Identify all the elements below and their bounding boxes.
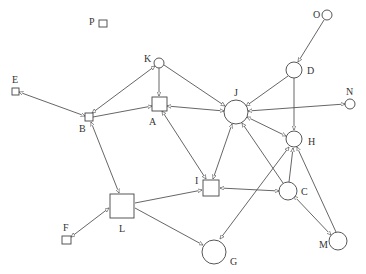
edge-O-D: [298, 20, 324, 62]
label-A: A: [149, 116, 157, 127]
node-A[interactable]: [152, 97, 167, 111]
edge-K-J: [164, 65, 225, 106]
label-M: M: [319, 239, 328, 250]
label-F: F: [63, 222, 69, 233]
edge-D-J: [246, 76, 288, 106]
node-K[interactable]: [154, 58, 164, 68]
edge-I-J: [213, 124, 232, 179]
label-O: O: [313, 9, 320, 20]
node-I[interactable]: [203, 180, 219, 196]
edge-B-K: [92, 66, 155, 113]
edge-L-I: [135, 190, 202, 203]
label-K: K: [144, 53, 152, 64]
edge-B-E: [19, 92, 85, 116]
edge-F-L: [71, 208, 109, 237]
edge-H-J: [247, 117, 286, 136]
edge-I-C: [220, 188, 279, 191]
label-L: L: [119, 223, 125, 234]
node-C[interactable]: [279, 182, 297, 200]
graph-canvas: P E B K A J O D N H I C L F G M: [0, 0, 366, 274]
edge-A-I: [162, 111, 206, 179]
node-N[interactable]: [345, 99, 355, 109]
edge-J-N: [248, 104, 345, 111]
node-L[interactable]: [110, 194, 134, 218]
node-E[interactable]: [12, 88, 19, 95]
node-D[interactable]: [286, 62, 302, 78]
label-G: G: [230, 256, 237, 267]
label-P: P: [89, 16, 95, 27]
node-B[interactable]: [85, 113, 93, 121]
node-F[interactable]: [62, 236, 71, 244]
edge-C-H: [289, 148, 293, 182]
label-H: H: [308, 136, 315, 147]
node-H[interactable]: [286, 131, 302, 147]
edge-M-C: [294, 196, 331, 235]
node-M[interactable]: [329, 232, 347, 250]
label-C: C: [301, 186, 308, 197]
edge-G-H: [220, 147, 289, 239]
label-I: I: [195, 175, 198, 186]
node-J[interactable]: [224, 100, 248, 124]
edge-L-G: [135, 208, 203, 245]
label-E: E: [12, 74, 18, 85]
edge-J-A: [167, 106, 224, 111]
node-O[interactable]: [322, 10, 332, 20]
label-J: J: [234, 87, 238, 98]
label-D: D: [307, 65, 314, 76]
node-P[interactable]: [99, 20, 107, 27]
label-N: N: [346, 86, 353, 97]
edge-B-L: [91, 122, 119, 193]
label-B: B: [79, 123, 86, 134]
edge-B-A: [93, 106, 152, 117]
node-G[interactable]: [202, 240, 226, 264]
